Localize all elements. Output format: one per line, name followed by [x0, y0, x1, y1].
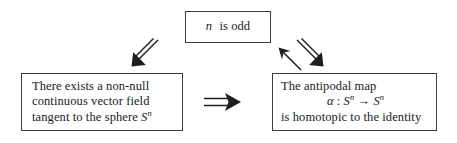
text-tangent-to-sphere: tangent to the sphere [32, 110, 141, 124]
box-n-is-odd: n is odd [185, 11, 271, 43]
diagram-canvas: n is odd There exists a non-null continu… [0, 0, 457, 143]
math-colon: : [334, 94, 344, 108]
box-non-null-vector-field: There exists a non-null continuous vecto… [21, 73, 183, 131]
vector-field-line-2: continuous vector field [32, 94, 150, 110]
antipodal-line-2: α : Sn → Sn [327, 94, 390, 110]
implies-right-arrow [203, 90, 243, 114]
antipodal-line-1: The antipodal map [281, 79, 376, 95]
vector-field-line-1: There exists a non-null [32, 79, 149, 95]
vector-field-line-3: tangent to the sphere Sn [32, 110, 152, 126]
math-superscript-n: n [147, 108, 151, 118]
box-n-is-odd-line-1: n is odd [206, 19, 250, 35]
implies-down-left-arrow [130, 38, 160, 68]
box-antipodal-map: The antipodal map α : Sn → Sn is homotop… [272, 73, 437, 131]
math-alpha: α [327, 94, 334, 108]
implies-up-left-arrow [277, 46, 303, 72]
math-superscript-n-codomain: n [380, 92, 384, 102]
math-n: n [206, 19, 212, 33]
antipodal-line-3: is homotopic to the identity [281, 110, 421, 126]
text-is-odd: is odd [216, 19, 250, 33]
math-maps-to-arrow: → [354, 94, 373, 108]
